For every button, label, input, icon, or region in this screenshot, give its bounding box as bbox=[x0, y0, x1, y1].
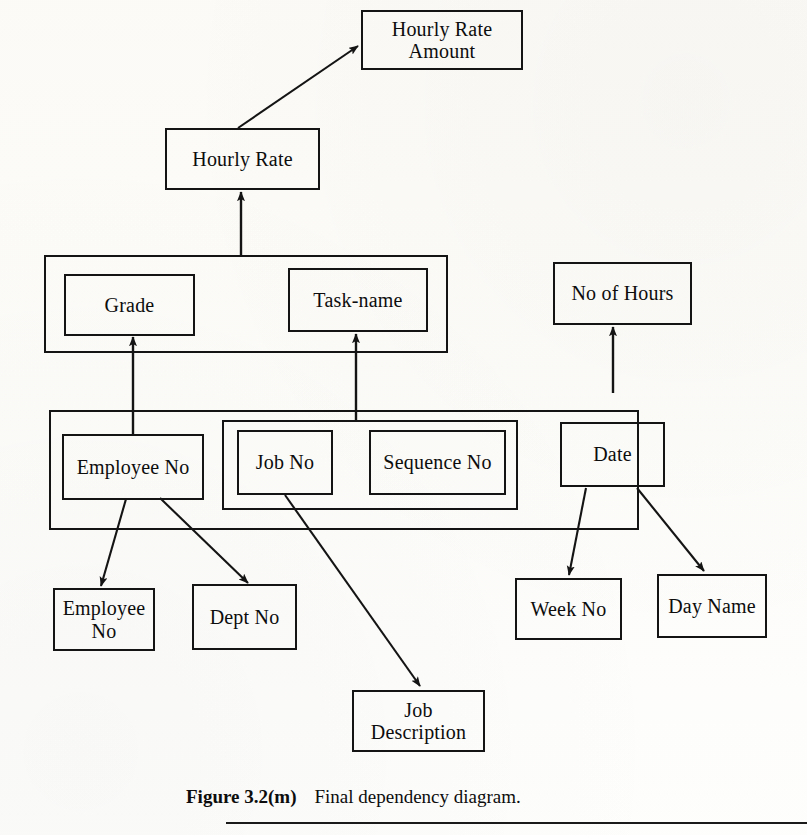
figure-caption: Figure 3.2(m)Final dependency diagram. bbox=[186, 786, 521, 808]
node-label: Employee No bbox=[77, 456, 190, 478]
figure-caption-text: Final dependency diagram. bbox=[314, 786, 520, 807]
node-label: Hourly Rate bbox=[192, 148, 293, 170]
figure-page: Hourly Rate Amount Hourly Rate Grade Tas… bbox=[0, 0, 807, 835]
node-employee-no-dependent: Employee No bbox=[53, 588, 155, 651]
node-label: Task-name bbox=[313, 289, 402, 311]
node-week-no: Week No bbox=[515, 578, 622, 640]
node-label: Hourly Rate Amount bbox=[392, 18, 493, 63]
node-label: Job Description bbox=[371, 699, 467, 744]
node-grade: Grade bbox=[64, 274, 195, 336]
node-label: Job No bbox=[256, 451, 314, 473]
node-label: No of Hours bbox=[571, 282, 673, 304]
node-hourly-rate-amount: Hourly Rate Amount bbox=[361, 10, 523, 70]
node-label: Sequence No bbox=[383, 451, 491, 473]
figure-number: Figure 3.2(m) bbox=[186, 786, 296, 807]
node-job-description: Job Description bbox=[352, 690, 485, 752]
node-day-name: Day Name bbox=[657, 574, 767, 638]
node-task-name: Task-name bbox=[288, 268, 428, 332]
node-sequence-no: Sequence No bbox=[369, 430, 506, 495]
node-label: Dept No bbox=[210, 606, 280, 628]
node-label: Date bbox=[593, 443, 632, 465]
node-dept-no: Dept No bbox=[192, 584, 297, 650]
node-label: Grade bbox=[105, 294, 155, 316]
node-employee-no-key: Employee No bbox=[62, 434, 204, 500]
node-label: Employee No bbox=[63, 597, 146, 642]
node-date: Date bbox=[560, 422, 665, 487]
node-job-no: Job No bbox=[237, 430, 333, 495]
edge-date-to-day-name bbox=[637, 488, 704, 571]
node-hourly-rate: Hourly Rate bbox=[165, 128, 320, 190]
node-label: Day Name bbox=[668, 595, 756, 617]
node-label: Week No bbox=[531, 598, 607, 620]
node-no-of-hours: No of Hours bbox=[553, 262, 692, 325]
page-rule bbox=[226, 822, 807, 824]
edge-hourly-rate-to-amount bbox=[238, 46, 358, 128]
